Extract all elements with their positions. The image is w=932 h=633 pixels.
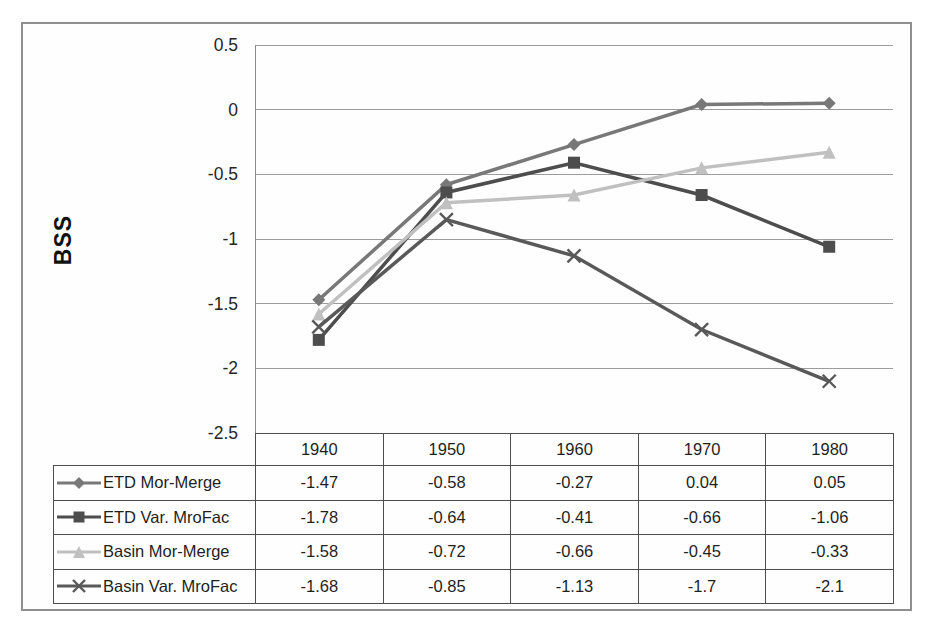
y-tick-label-4: -1.5 xyxy=(128,293,238,315)
year-header-1980: 1980 xyxy=(766,434,894,466)
diamond-marker xyxy=(568,138,581,151)
triangle-marker-icon xyxy=(56,544,102,560)
value-cell: -1.13 xyxy=(511,569,639,604)
plot-area xyxy=(255,45,893,433)
legend-cell: Basin Var. MroFac xyxy=(54,569,256,604)
square-marker xyxy=(823,241,835,253)
y-tick-label-2: -0.5 xyxy=(128,163,238,185)
value-cell: -0.66 xyxy=(511,535,639,570)
series-label: ETD Mor-Merge xyxy=(103,473,221,492)
y-tick-label-5: -2 xyxy=(128,357,238,379)
series-label: Basin Var. MroFac xyxy=(103,577,238,596)
value-cell: -0.66 xyxy=(638,500,766,535)
value-cell: -1.7 xyxy=(638,569,766,604)
line-chart-svg xyxy=(255,45,893,433)
diamond-marker xyxy=(823,97,836,110)
value-cell: -0.27 xyxy=(511,466,639,501)
square-marker xyxy=(568,157,580,169)
table-row: ETD Var. MroFac -1.78 -0.64 -0.41 -0.66 … xyxy=(54,500,894,535)
diamond-marker xyxy=(73,477,85,489)
value-cell: -1.78 xyxy=(256,500,384,535)
value-cell: -0.85 xyxy=(383,569,511,604)
series-line xyxy=(319,152,829,314)
square-marker xyxy=(696,189,708,201)
value-cell: -0.41 xyxy=(511,500,639,535)
year-header-1960: 1960 xyxy=(511,434,639,466)
series-label: Basin Mor-Merge xyxy=(103,542,230,561)
table-row: ETD Mor-Merge -1.47 -0.58 -0.27 0.04 0.0… xyxy=(54,466,894,501)
value-cell: -2.1 xyxy=(766,569,894,604)
data-table: 1940 1950 1960 1970 1980 ETD Mor-Merge -… xyxy=(53,433,894,604)
value-cell: -0.33 xyxy=(766,535,894,570)
legend-cell: ETD Mor-Merge xyxy=(54,466,256,501)
chart-figure: BSS 0.5 0 -0.5 -1 -1.5 -2 -2.5 1940 1950… xyxy=(0,0,932,633)
series-line xyxy=(319,220,829,382)
value-cell: -0.64 xyxy=(383,500,511,535)
value-cell: -1.58 xyxy=(256,535,384,570)
value-cell: 0.05 xyxy=(766,466,894,501)
table-blank-corner xyxy=(54,434,256,466)
y-tick-label-3: -1 xyxy=(128,228,238,250)
table-header-row: 1940 1950 1960 1970 1980 xyxy=(54,434,894,466)
year-header-1950: 1950 xyxy=(383,434,511,466)
year-header-1970: 1970 xyxy=(638,434,766,466)
y-tick-label-0: 0.5 xyxy=(128,34,238,56)
legend-cell: Basin Mor-Merge xyxy=(54,535,256,570)
value-cell: -0.58 xyxy=(383,466,511,501)
value-cell: -1.06 xyxy=(766,500,894,535)
y-tick-label-1: 0 xyxy=(128,99,238,121)
x-marker-icon xyxy=(56,578,102,594)
value-cell: -1.68 xyxy=(256,569,384,604)
diamond-marker xyxy=(695,98,708,111)
value-cell: -0.45 xyxy=(638,535,766,570)
square-marker xyxy=(74,512,85,523)
table-row: Basin Mor-Merge -1.58 -0.72 -0.66 -0.45 … xyxy=(54,535,894,570)
table-row: Basin Var. MroFac -1.68 -0.85 -1.13 -1.7… xyxy=(54,569,894,604)
diamond-marker-icon xyxy=(56,475,102,491)
year-header-1940: 1940 xyxy=(256,434,384,466)
square-marker xyxy=(313,334,325,346)
square-marker-icon xyxy=(56,509,102,525)
value-cell: 0.04 xyxy=(638,466,766,501)
value-cell: -0.72 xyxy=(383,535,511,570)
series-label: ETD Var. MroFac xyxy=(103,508,229,527)
value-cell: -1.47 xyxy=(256,466,384,501)
y-axis-title: BSS xyxy=(50,180,80,300)
legend-cell: ETD Var. MroFac xyxy=(54,500,256,535)
